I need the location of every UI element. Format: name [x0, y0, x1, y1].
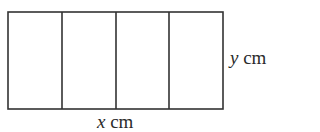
height-variable: y [230, 47, 238, 68]
height-label: y cm [230, 48, 266, 67]
width-unit: cm [110, 111, 133, 132]
width-variable: x [97, 111, 105, 132]
width-label: x cm [97, 112, 133, 131]
section-dividers [62, 12, 169, 109]
height-unit: cm [243, 47, 266, 68]
